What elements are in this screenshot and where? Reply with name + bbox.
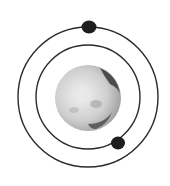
- outer-satellite: [82, 21, 97, 34]
- orbit-diagram: [0, 0, 170, 186]
- orbit-diagram-svg: [0, 0, 170, 186]
- planet: [55, 65, 121, 131]
- inner-satellite: [111, 137, 125, 150]
